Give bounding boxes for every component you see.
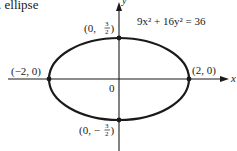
label-right-point: (2, 0) xyxy=(192,64,216,77)
svg-text:3: 3 xyxy=(105,20,109,28)
point-right xyxy=(187,77,192,82)
ellipse-diagram: . ellipse x y 0 9x² + 16y² = 36 (0, 3 2 … xyxy=(0,0,237,151)
y-axis-label: y xyxy=(121,0,127,6)
point-top xyxy=(117,36,122,41)
equation-label: 9x² + 16y² = 36 xyxy=(137,15,206,27)
caption: . ellipse xyxy=(0,0,39,12)
label-bottom-point: (0, − 3 2 ) xyxy=(79,122,115,138)
svg-text:(0,: (0, xyxy=(84,22,96,35)
point-bottom xyxy=(117,118,122,123)
svg-text:3: 3 xyxy=(105,122,109,130)
x-axis-arrow-icon xyxy=(220,76,229,82)
svg-text:): ) xyxy=(111,22,115,35)
svg-text:(0, −: (0, − xyxy=(79,124,100,137)
svg-text:2: 2 xyxy=(105,130,109,138)
point-left xyxy=(47,77,52,82)
origin-label: 0 xyxy=(109,82,115,94)
label-top-point: (0, 3 2 ) xyxy=(84,20,115,36)
x-axis-label: x xyxy=(230,72,236,84)
svg-text:): ) xyxy=(111,124,115,137)
label-left-point: (−2, 0) xyxy=(11,65,41,78)
svg-text:2: 2 xyxy=(105,28,109,36)
